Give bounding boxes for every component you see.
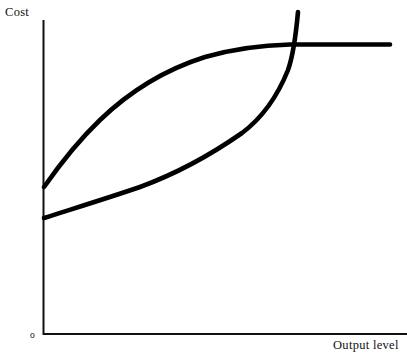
origin-label: o — [30, 330, 35, 340]
chart-plot-area — [0, 0, 407, 361]
y-axis-title: Cost — [5, 5, 29, 20]
convex-cost-curve — [44, 12, 298, 218]
curves-group — [44, 12, 390, 218]
cost-curves-figure: Cost Output level o — [0, 0, 407, 361]
x-axis-title: Output level — [333, 338, 399, 353]
axes-group — [43, 20, 407, 335]
concave-cost-curve — [44, 45, 390, 188]
